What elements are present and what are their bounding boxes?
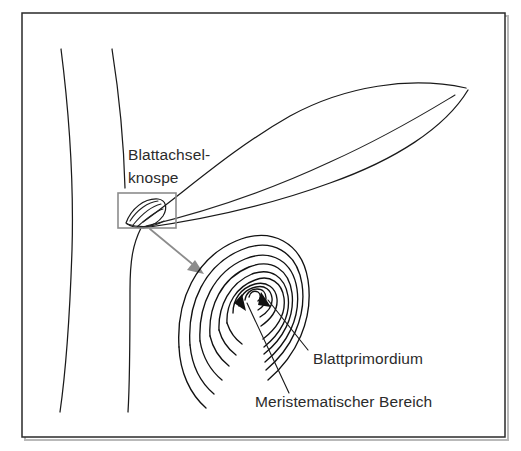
- diagram-canvas: Blattachsel- knospe Blattprimordium Meri…: [0, 0, 521, 451]
- axillary-bud-label-line2: knospe: [128, 169, 179, 186]
- meristematic-region-label: Meristematischer Bereich: [255, 393, 432, 410]
- leaf-primordium-label: Blattprimordium: [313, 350, 423, 367]
- figure-frame: [22, 13, 505, 437]
- axillary-bud-label-line1: Blattachsel-: [128, 146, 210, 163]
- botanical-diagram-figure: Blattachsel- knospe Blattprimordium Meri…: [0, 0, 521, 451]
